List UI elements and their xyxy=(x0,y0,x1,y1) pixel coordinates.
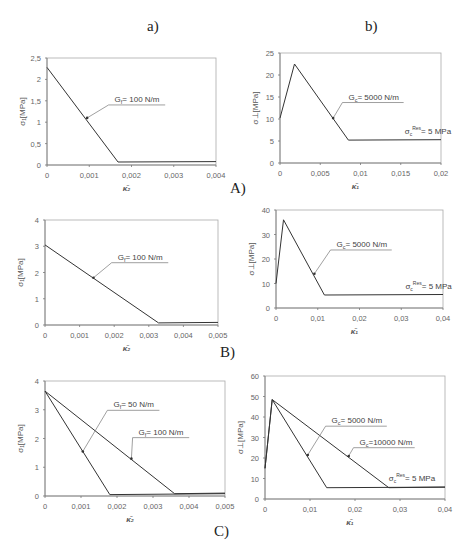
chart-Ab: 00,0050,010,0150,020510152025κ̄₁σ⊥[MPa]G… xyxy=(232,40,469,210)
y-tick-label: 0 xyxy=(35,492,39,501)
annotation-arrow-tip xyxy=(332,117,335,120)
y-tick-label: 0 xyxy=(255,495,259,504)
plot-area-frame xyxy=(47,58,216,165)
y-tick-label: 1 xyxy=(35,295,39,304)
y-tick-label: 40 xyxy=(251,413,259,422)
y-tick-label: 0 xyxy=(266,304,270,313)
y-tick-label: 1 xyxy=(37,118,41,127)
y-tick-label: 30 xyxy=(251,434,259,443)
chart-Ca: 00,0010,0020,0030,0040,00501234κ̄₂σ₁[MPa… xyxy=(0,360,230,520)
y-axis-label: σ⊥[MPa] xyxy=(236,421,245,454)
x-axis-label: κ̄₂ xyxy=(123,344,131,353)
annotation-arrow-tip xyxy=(92,276,95,279)
x-tick-label: 0,04 xyxy=(436,314,451,323)
y-tick-label: 5 xyxy=(270,137,274,146)
x-tick-label: 0 xyxy=(278,169,282,178)
y-tick-label: 10 xyxy=(262,280,270,289)
annotation-leader xyxy=(349,448,415,456)
x-tick-label: 0 xyxy=(43,331,47,340)
x-tick-label: 0,004 xyxy=(180,502,199,511)
y-tick-label: 4 xyxy=(35,377,39,386)
annotation-arrow-tip xyxy=(82,450,85,453)
chart-Cb: 00,010,020,030,040102030405060κ̄₁σ⊥[MPa]… xyxy=(232,360,469,520)
x-tick-label: 0,002 xyxy=(108,502,127,511)
x-tick-label: 0,001 xyxy=(70,331,89,340)
annotation-label: Gf= 50 N/m xyxy=(113,400,154,410)
annotation-arrow-tip xyxy=(306,454,309,457)
row-label-C: C) xyxy=(214,523,229,540)
y-tick-label: 20 xyxy=(251,454,259,463)
x-axis-label: κ̄₂ xyxy=(123,184,131,193)
annotation-label: Gf= 100 N/m xyxy=(115,95,160,105)
y-tick-label: 20 xyxy=(262,255,270,264)
annotation-arrow-tip xyxy=(130,457,133,460)
y-tick-label: 40 xyxy=(262,206,270,215)
annotation-label: Gc=10000 N/m xyxy=(360,438,413,448)
chart-Aa: 00,0010,0020,0030,00400,511,522,5κ̄₂σ₁[M… xyxy=(0,40,230,210)
column-label-b: b) xyxy=(365,18,378,35)
x-tick-label: 0,003 xyxy=(144,502,163,511)
x-tick-label: 0,04 xyxy=(438,505,453,514)
column-label-a: a) xyxy=(147,18,159,35)
plot-area-frame xyxy=(276,210,443,308)
x-tick-label: 0,03 xyxy=(394,314,409,323)
annotation-label: Gf= 100 N/m xyxy=(139,428,184,438)
x-tick-label: 0,02 xyxy=(348,505,363,514)
x-tick-label: 0,01 xyxy=(353,169,368,178)
x-tick-label: 0,003 xyxy=(164,171,183,180)
x-tick-label: 0,004 xyxy=(174,331,193,340)
y-tick-label: 3 xyxy=(35,406,39,415)
annotation-arrow-tip xyxy=(313,272,316,275)
plot-area-frame xyxy=(45,220,218,325)
x-tick-label: 0 xyxy=(263,505,267,514)
y-tick-label: 0 xyxy=(37,161,41,170)
y-tick-label: 25 xyxy=(266,49,274,58)
y-axis-label: σ₁[MPa] xyxy=(18,97,27,126)
annotation-label: Gc= 5000 N/m xyxy=(348,93,399,103)
x-axis-label: κ̄₁ xyxy=(352,182,360,191)
y-axis-label: σ₁[MPa] xyxy=(16,258,25,287)
y-tick-label: 2,5 xyxy=(31,54,41,63)
x-tick-label: 0,015 xyxy=(391,169,410,178)
x-tick-label: 0,01 xyxy=(310,314,325,323)
plot-area-frame xyxy=(280,53,441,163)
chart-Bb: 00,010,020,030,04010203040κ̄₁σ⊥[MPa]Gc= … xyxy=(232,200,469,360)
y-axis-label: σ⊥[MPa] xyxy=(247,243,256,276)
x-tick-label: 0,002 xyxy=(122,171,141,180)
annotation-label: Gf= 100 N/m xyxy=(118,253,163,263)
y-tick-label: 60 xyxy=(251,372,259,381)
x-tick-label: 0,002 xyxy=(105,331,124,340)
x-tick-label: 0,001 xyxy=(80,171,99,180)
x-tick-label: 0,03 xyxy=(393,505,408,514)
x-tick-label: 0,004 xyxy=(207,171,226,180)
plot-area-frame xyxy=(45,381,225,496)
y-tick-label: 1,5 xyxy=(31,97,41,106)
annotation-leader xyxy=(314,250,391,274)
x-tick-label: 0 xyxy=(43,502,47,511)
y-tick-label: 2 xyxy=(35,435,39,444)
x-tick-label: 0,005 xyxy=(311,169,330,178)
series-line-0 xyxy=(47,67,216,162)
x-axis-label: κ̄₁ xyxy=(351,327,359,336)
y-tick-label: 0 xyxy=(35,321,39,330)
y-tick-label: 2 xyxy=(35,269,39,278)
annotation-label: Gc= 5000 N/m xyxy=(337,240,388,250)
x-tick-label: 0,02 xyxy=(434,169,449,178)
x-axis-label: κ̄₁ xyxy=(346,518,354,527)
x-tick-label: 0 xyxy=(274,314,278,323)
chart-Ba: 00,0010,0020,0030,0040,00501234κ̄₂σ₁[MPa… xyxy=(0,200,230,360)
x-tick-label: 0,001 xyxy=(72,502,91,511)
y-tick-label: 0,5 xyxy=(31,140,41,149)
annotation-leader xyxy=(93,263,168,278)
y-tick-label: 15 xyxy=(266,93,274,102)
x-tick-label: 0,01 xyxy=(303,505,318,514)
annotation-leader xyxy=(333,103,403,119)
x-axis-label: κ̄₂ xyxy=(126,515,134,524)
annotation-arrow-tip xyxy=(86,117,89,120)
annotation-label: σcRes= 5 MPa xyxy=(389,472,436,484)
y-tick-label: 50 xyxy=(251,393,259,402)
y-axis-label: σ⊥[MPa] xyxy=(251,92,260,125)
y-tick-label: 30 xyxy=(262,231,270,240)
x-tick-label: 0,005 xyxy=(209,331,228,340)
annotation-label: σcRes= 5 MPa xyxy=(405,125,452,137)
